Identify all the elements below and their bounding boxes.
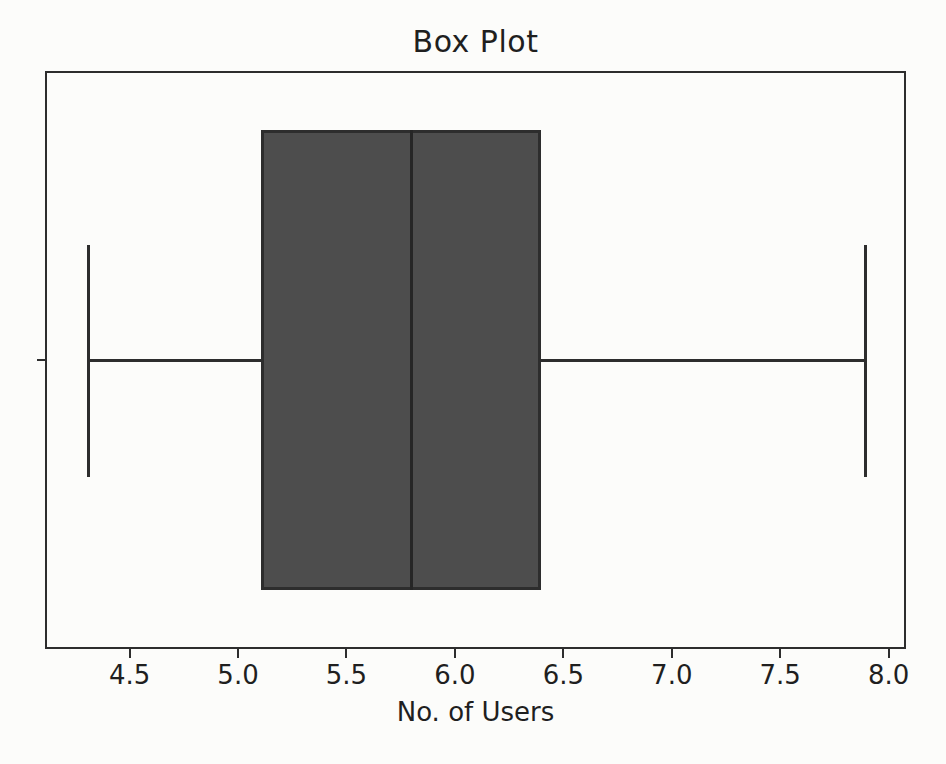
y-axis-tick bbox=[37, 359, 45, 361]
plot-area bbox=[45, 71, 906, 649]
x-tick-mark bbox=[562, 649, 564, 658]
whisker-cap-min bbox=[87, 245, 90, 476]
x-tick-mark bbox=[129, 649, 131, 658]
x-tick-label: 6.5 bbox=[543, 660, 584, 690]
x-tick-label: 6.0 bbox=[434, 660, 475, 690]
x-tick-mark bbox=[779, 649, 781, 658]
iqr-box bbox=[261, 130, 542, 590]
boxplot-figure: Box Plot 4.55.05.56.06.57.07.58.0 No. of… bbox=[0, 0, 946, 764]
x-tick-mark bbox=[345, 649, 347, 658]
x-tick-mark bbox=[237, 649, 239, 658]
whisker-line-right bbox=[541, 359, 865, 362]
x-tick-label: 7.5 bbox=[760, 660, 801, 690]
x-tick-mark bbox=[888, 649, 890, 658]
x-axis-ticks: 4.55.05.56.06.57.07.58.0 bbox=[45, 649, 906, 699]
whisker-cap-max bbox=[864, 245, 867, 476]
x-tick-label: 4.5 bbox=[109, 660, 150, 690]
x-axis-label: No. of Users bbox=[45, 697, 906, 727]
x-tick-label: 8.0 bbox=[868, 660, 909, 690]
x-tick-label: 7.0 bbox=[651, 660, 692, 690]
whisker-line-left bbox=[88, 359, 261, 362]
x-tick-label: 5.5 bbox=[326, 660, 367, 690]
chart-title: Box Plot bbox=[45, 24, 906, 59]
median-line bbox=[410, 130, 413, 590]
x-tick-mark bbox=[454, 649, 456, 658]
x-tick-mark bbox=[671, 649, 673, 658]
x-tick-label: 5.0 bbox=[217, 660, 258, 690]
